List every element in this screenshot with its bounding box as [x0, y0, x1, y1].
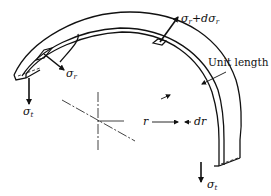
ring-outer-edge: [14, 12, 241, 140]
label-unit-length: Unit length: [208, 56, 269, 68]
ring-stress-diagram: σr σr+dσr σt σt Unit length r dr: [0, 0, 271, 196]
label-thickness: dr: [194, 115, 207, 128]
ring-inner-face: [26, 32, 219, 140]
thickness-indicator: [161, 95, 170, 99]
label-sigma-t-left: σt: [23, 105, 34, 119]
label-sigma-r-left: σr: [66, 67, 78, 81]
label-sigma-r-plus-d-sigma-r: σr+dσr: [181, 12, 220, 26]
sigma-r-arrow-left: [44, 54, 64, 70]
left-end-face: [14, 70, 40, 80]
right-end-face: [219, 158, 240, 166]
top-element: [153, 39, 166, 45]
label-radius: r: [143, 115, 149, 128]
center-axes: [62, 92, 135, 152]
ring-inner-contour: [60, 34, 78, 62]
label-sigma-t-right: σt: [207, 178, 218, 192]
half-ring: [14, 12, 241, 166]
